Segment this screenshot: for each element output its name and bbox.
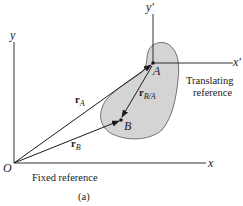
vector-r-a-label: rA — [75, 94, 85, 108]
fixed-x-label: x — [207, 156, 214, 170]
point-b — [119, 118, 123, 122]
translating-reference-label-line2: reference — [193, 87, 232, 98]
fixed-reference-label: Fixed reference — [32, 172, 98, 183]
point-b-label: B — [124, 119, 132, 133]
translating-x-label: x′ — [232, 55, 241, 69]
origin-label: O — [3, 161, 12, 175]
translating-y-label: y′ — [145, 0, 154, 14]
point-a-label: A — [152, 64, 161, 78]
diagram-canvas: y x O Fixed reference y′ x′ Translating … — [0, 0, 243, 206]
vector-r-b-label: rB — [71, 138, 81, 152]
fixed-y-label: y — [9, 28, 16, 42]
figure-caption: (a) — [78, 191, 90, 203]
vector-r-b — [14, 121, 119, 163]
translating-reference-label-line1: Translating — [186, 75, 234, 86]
